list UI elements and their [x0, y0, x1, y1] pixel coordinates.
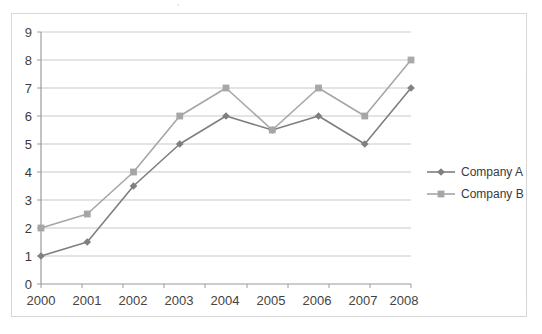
diamond-marker-icon	[222, 112, 230, 120]
chart-container: 9 8 7 6 5 4 3 2 1 0 2000 2001	[11, 13, 527, 317]
x-tick-label: 2002	[119, 293, 148, 308]
square-marker-icon	[408, 57, 415, 64]
y-axis-tick-labels: 9 8 7 6 5 4 3 2 1 0	[25, 25, 32, 292]
scan-noise-artifacts	[0, 0, 542, 12]
y-tick-label: 7	[25, 81, 32, 96]
square-marker-icon	[38, 225, 45, 232]
y-tick-label: 3	[25, 193, 32, 208]
x-axis-tick-labels: 2000 2001 2002 2003 2004 2005 2006 2007 …	[27, 293, 419, 308]
x-tick-label: 2000	[27, 293, 56, 308]
y-tick-label: 4	[25, 165, 32, 180]
y-tick-label: 8	[25, 53, 32, 68]
line-chart: 9 8 7 6 5 4 3 2 1 0 2000 2001	[12, 14, 526, 316]
y-tick-label: 2	[25, 221, 32, 236]
square-marker-icon	[315, 85, 322, 92]
square-marker-icon	[223, 85, 230, 92]
data-series-layer	[37, 57, 415, 260]
y-tick-label: 1	[25, 249, 32, 264]
x-tick-label: 2001	[73, 293, 102, 308]
square-marker-icon	[438, 191, 445, 198]
square-marker-icon	[84, 211, 91, 218]
legend-label-company-a: Company A	[461, 165, 523, 179]
square-marker-icon	[176, 113, 183, 120]
diamond-marker-icon	[437, 168, 445, 176]
x-tick-label: 2006	[303, 293, 332, 308]
diamond-marker-icon	[315, 112, 323, 120]
legend-item-company-a[interactable]: Company A	[427, 165, 523, 179]
chart-legend: Company A Company B	[427, 165, 524, 201]
y-tick-label: 0	[25, 277, 32, 292]
gridlines	[41, 32, 411, 256]
square-marker-icon	[269, 127, 276, 134]
square-marker-icon	[130, 169, 137, 176]
y-tick-label: 5	[25, 137, 32, 152]
x-tick-label: 2003	[165, 293, 194, 308]
y-tick-label: 6	[25, 109, 32, 124]
x-tick-label: 2004	[211, 293, 240, 308]
legend-label-company-b: Company B	[461, 187, 524, 201]
x-tick-label: 2008	[390, 293, 419, 308]
square-marker-icon	[361, 113, 368, 120]
x-tick-label: 2005	[257, 293, 286, 308]
axis-lines	[41, 32, 411, 284]
x-tick-label: 2007	[349, 293, 378, 308]
legend-item-company-b[interactable]: Company B	[427, 187, 524, 201]
diamond-marker-icon	[37, 252, 45, 260]
y-tick-label: 9	[25, 25, 32, 40]
